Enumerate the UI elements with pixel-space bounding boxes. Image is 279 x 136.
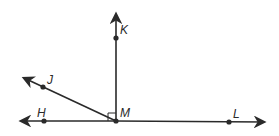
- label-k: K: [120, 23, 129, 37]
- point-m: [113, 118, 118, 123]
- label-h: H: [37, 106, 46, 120]
- geometry-diagram: K J H M L: [0, 0, 279, 136]
- point-l: [226, 119, 231, 124]
- ray-ml: [116, 121, 264, 122]
- label-l: L: [233, 107, 240, 121]
- point-k: [113, 35, 118, 40]
- point-j: [40, 84, 45, 89]
- label-j: J: [46, 73, 54, 87]
- label-m: M: [120, 106, 130, 120]
